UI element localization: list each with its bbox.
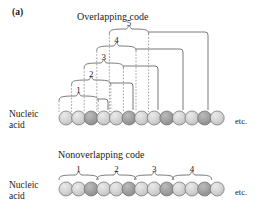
row-label-line2: acid (9, 121, 39, 131)
etc-label-overlapping: etc. (235, 117, 247, 126)
nucleotide-bead (59, 182, 73, 196)
codon-number-label: 3 (148, 165, 160, 174)
etc-label-nonoverlapping: etc. (235, 188, 247, 197)
nucleotide-bead (97, 111, 111, 125)
nucleotide-bead (198, 111, 212, 125)
codon-number-label: 5 (123, 19, 135, 28)
nucleotide-bead (172, 182, 186, 196)
row-label-nucleic-acid-nonoverlapping: Nucleic acid (9, 181, 39, 201)
nucleotide-bead (122, 182, 136, 196)
row-label-line1: Nucleic (9, 180, 39, 190)
section-title-overlapping: Overlapping code (77, 12, 148, 22)
nucleotide-bead (135, 111, 149, 125)
nucleotide-bead (172, 111, 186, 125)
row-label-line2: acid (9, 192, 39, 202)
codon-number-label: 4 (110, 36, 122, 45)
genetic-code-diagram-svg (0, 0, 265, 220)
nucleotide-bead (135, 182, 149, 196)
codon-drop-line (149, 32, 208, 110)
codon-number-label: 2 (110, 165, 122, 174)
row-label-nucleic-acid-overlapping: Nucleic acid (9, 110, 39, 130)
nucleotide-bead (109, 111, 123, 125)
nucleotide-bead (147, 111, 161, 125)
nucleotide-bead (185, 111, 199, 125)
codon-number-label: 2 (85, 70, 97, 79)
nucleotide-bead (198, 182, 212, 196)
nucleotide-bead (72, 182, 86, 196)
codon-group-overlapping-1 (59, 92, 108, 112)
nucleotide-bead (109, 182, 123, 196)
codon-number-label: 1 (73, 86, 85, 95)
codon-drop-line (98, 99, 108, 110)
figure-overlapping-vs-nonoverlapping-code: (a) Overlapping code Nucleic acid etc. N… (0, 0, 265, 220)
codon-drop-line (123, 66, 158, 110)
nucleotide-bead (84, 182, 98, 196)
nucleotide-bead (185, 182, 199, 196)
nucleotide-bead (210, 111, 224, 125)
bead-chain-nonoverlapping (59, 182, 224, 196)
nucleotide-bead (72, 111, 86, 125)
nucleotide-bead (97, 182, 111, 196)
codon-group-overlapping-5 (109, 25, 208, 112)
section-title-nonoverlapping: Nonoverlapping code (58, 150, 144, 160)
nucleotide-bead (147, 182, 161, 196)
row-label-line1: Nucleic (9, 109, 39, 119)
nucleotide-bead (59, 111, 73, 125)
codon-group-overlapping-3 (84, 59, 158, 112)
codon-drop-line (136, 49, 183, 110)
panel-letter: (a) (12, 8, 23, 18)
codon-number-label: 3 (98, 53, 110, 62)
codon-drop-line (111, 83, 133, 110)
nucleotide-bead (160, 111, 174, 125)
nucleotide-bead (84, 111, 98, 125)
nucleotide-bead (160, 182, 174, 196)
nucleotide-bead (122, 111, 136, 125)
nucleotide-bead (210, 182, 224, 196)
codon-number-label: 4 (186, 165, 198, 174)
bead-chain-overlapping (59, 111, 224, 125)
codon-number-label: 1 (73, 165, 85, 174)
